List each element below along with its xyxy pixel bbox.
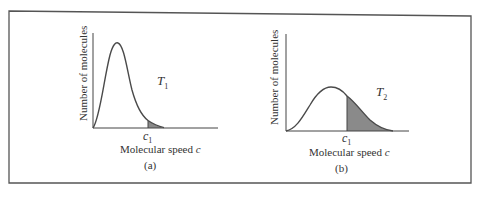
panel-a-plot [93,33,218,128]
distribution-curve-a [93,43,164,128]
figure: Number of molecules T1 c1 Molecular spee… [0,0,477,198]
c1-label-b: c1 [342,131,351,147]
panel-b-plot [286,34,409,131]
y-axis-label-b: Number of molecules [268,30,280,125]
temperature-label-b: T2 [376,84,387,102]
x-axis-label-b: Molecular speed c [309,146,390,158]
panel-caption-b: (b) [335,162,348,174]
temperature-label-a: T1 [157,73,168,91]
x-axis-label-a: Molecular speed c [120,143,201,155]
panel-caption-a: (a) [144,159,156,171]
figure-graphics [0,0,477,198]
y-axis-label-a: Number of molecules [77,26,89,121]
